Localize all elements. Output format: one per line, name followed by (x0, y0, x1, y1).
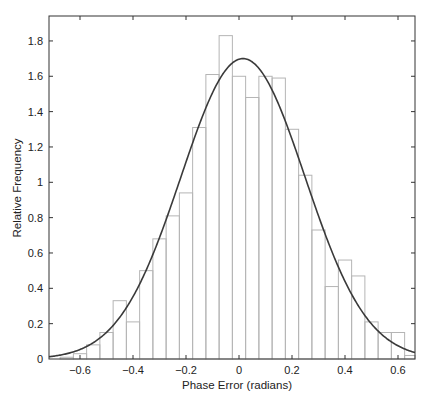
histogram-bar (325, 287, 338, 359)
histogram-bar (338, 260, 351, 359)
y-tick-label: 1.4 (28, 106, 43, 118)
y-tick-label: 0.2 (28, 318, 43, 330)
histogram-bar (193, 128, 206, 359)
histogram-bar (312, 230, 325, 359)
histogram-bar (140, 271, 153, 359)
x-tick-label: 0.2 (284, 364, 299, 376)
y-tick-label: 0.8 (28, 212, 43, 224)
histogram-bar (153, 239, 166, 359)
histogram-bar (365, 322, 378, 359)
histogram-bar (166, 216, 179, 359)
x-tick-label: 0 (236, 364, 242, 376)
y-tick-label: 1.8 (28, 35, 43, 47)
histogram-bar (285, 129, 298, 359)
histogram-bar (206, 75, 219, 359)
x-tick-label: 0.4 (337, 364, 352, 376)
histogram-bar (405, 355, 415, 359)
x-tick-label: −0.6 (69, 364, 91, 376)
histogram-bar (299, 175, 312, 359)
histogram-bar (232, 76, 245, 359)
x-axis-ticks: −0.6−0.4−0.200.20.40.6 (69, 16, 406, 376)
x-tick-label: 0.6 (390, 364, 405, 376)
histogram-bar (87, 345, 100, 359)
y-tick-label: 1.6 (28, 70, 43, 82)
y-tick-label: 0.4 (28, 282, 43, 294)
histogram-bar (272, 78, 285, 359)
histogram-bar (246, 97, 259, 359)
histogram-bar (352, 276, 365, 359)
y-tick-label: 1.2 (28, 141, 43, 153)
histogram-chart: −0.6−0.4−0.200.20.40.6 00.20.40.60.811.2… (0, 0, 427, 401)
y-tick-label: 0 (37, 353, 43, 365)
x-axis-label: Phase Error (radians) (182, 379, 292, 391)
histogram-bar (259, 76, 272, 359)
x-tick-label: −0.4 (122, 364, 144, 376)
histogram-bar (179, 193, 192, 359)
y-tick-label: 0.6 (28, 247, 43, 259)
y-axis-label: Relative Frequency (11, 138, 23, 237)
y-tick-label: 1 (37, 176, 43, 188)
histogram-bar (126, 322, 139, 359)
y-axis-ticks: 00.20.40.60.811.21.41.61.8 (28, 35, 415, 365)
x-tick-label: −0.2 (175, 364, 197, 376)
histogram-bar (219, 36, 232, 359)
